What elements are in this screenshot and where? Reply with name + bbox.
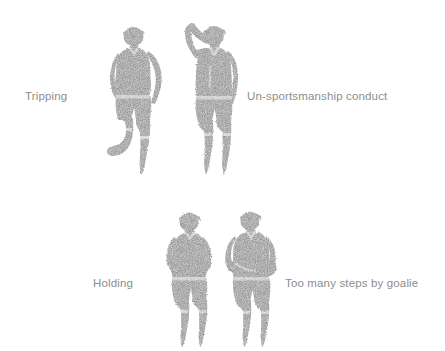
caption-holding: Holding — [93, 278, 133, 290]
caption-unsportsmanship: Un-sportsmanship conduct — [247, 91, 387, 103]
caption-too-many-steps-by-goalie: Too many steps by goalie — [285, 278, 418, 290]
caption-tripping: Tripping — [25, 91, 67, 103]
referee-unsportsmanship-signal-icon — [180, 20, 246, 176]
referee-signals-sheet: Tripping Un-sportsmanship conduct Holdin… — [0, 0, 445, 351]
referee-tripping-signal-icon — [106, 24, 184, 176]
referee-too-many-steps-signal-icon — [222, 206, 288, 348]
referee-holding-signal-icon — [165, 208, 229, 348]
